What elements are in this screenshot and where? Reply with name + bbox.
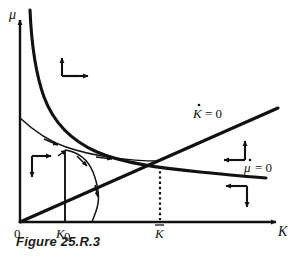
saddle-path-upper	[20, 118, 159, 161]
x-axis-label: K	[277, 224, 288, 239]
diagram-canvas: μ K 0 K 0 K K = 0 μ = 0	[0, 0, 300, 259]
mu-dot-zero-label: μ = 0	[243, 159, 272, 175]
mu-dot-zero-label-symbol: μ	[243, 160, 251, 175]
figure-caption: Figure 25.R.3	[16, 234, 100, 249]
tick-label-kbar-symbol: K	[154, 226, 165, 241]
phase-diagram-figure: μ K 0 K 0 K K = 0 μ = 0 Figure 25.R.3	[0, 0, 300, 259]
field-arrows-left-region	[32, 156, 51, 177]
field-arrows-upper-region	[62, 58, 88, 76]
mu-dot-zero-label-equals: = 0	[255, 160, 272, 175]
field-arrows-lower-right-region	[226, 186, 247, 207]
field-arrows-right-upper-region	[224, 141, 245, 160]
k-dot-zero-label: K = 0	[192, 104, 222, 121]
k-dot-zero-label-dot	[198, 104, 201, 107]
tick-label-kbar: K	[154, 225, 165, 241]
mu-dot-zero-label-dot	[249, 159, 252, 162]
k-dot-zero-label-equals: = 0	[205, 106, 222, 121]
y-axis-label: μ	[8, 7, 16, 22]
k-dot-zero-label-symbol: K	[192, 106, 203, 121]
